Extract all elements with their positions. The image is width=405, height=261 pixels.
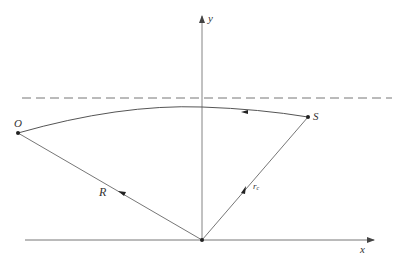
- source-vector-rc: [202, 117, 308, 240]
- curved-ray-path: [18, 107, 308, 133]
- source-vector-label-subscript: c: [257, 185, 260, 191]
- source-point: [306, 115, 310, 119]
- observer-vector-label: R: [99, 186, 106, 198]
- observer-label: O: [14, 118, 22, 129]
- path-direction-arrow-icon: [241, 110, 248, 114]
- y-axis-label: y: [208, 13, 213, 24]
- source-vector-label: rc: [253, 182, 259, 191]
- source-label: S: [313, 111, 319, 122]
- observer-point: [16, 131, 20, 135]
- source-vector-arrow-icon: [241, 186, 246, 194]
- origin-point: [200, 238, 204, 242]
- x-axis-label: x: [360, 244, 365, 255]
- observer-vector-R: [18, 133, 202, 240]
- diagram-canvas: [0, 0, 405, 261]
